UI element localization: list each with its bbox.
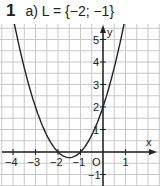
svg-text:2: 2 bbox=[93, 101, 99, 113]
parabola-curve bbox=[0, 0, 130, 158]
y-axis-label: y bbox=[107, 26, 113, 38]
svg-text:−1: −1 bbox=[88, 169, 101, 181]
parabola-chart: x y −4−3−2−11−112345 O bbox=[0, 0, 160, 186]
svg-text:5: 5 bbox=[93, 34, 99, 46]
origin-label: O bbox=[92, 156, 101, 168]
svg-text:−2: −2 bbox=[50, 156, 63, 168]
svg-text:4: 4 bbox=[93, 56, 99, 68]
svg-text:3: 3 bbox=[93, 79, 99, 91]
svg-text:−3: −3 bbox=[28, 156, 41, 168]
y-axis: y bbox=[100, 25, 113, 186]
svg-text:−4: −4 bbox=[5, 156, 18, 168]
svg-text:1: 1 bbox=[123, 156, 129, 168]
x-axis-label: x bbox=[146, 136, 152, 148]
svg-text:−1: −1 bbox=[73, 156, 86, 168]
